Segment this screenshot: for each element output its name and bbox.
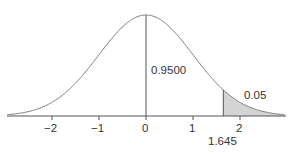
critical-value-label: 1.645 <box>208 136 237 148</box>
tick-label-neg2: −2 <box>44 123 57 135</box>
normal-distribution-chart: −2 −1 0 1 2 1.645 0.9500 0.05 <box>0 0 300 154</box>
center-area-label: 0.9500 <box>151 65 186 77</box>
tick-label-2: 2 <box>236 123 242 135</box>
tick-label-neg1: −1 <box>91 123 104 135</box>
tail-area-label: 0.05 <box>244 90 266 102</box>
tick-label-0: 0 <box>142 123 148 135</box>
x-axis-ticks <box>52 116 240 120</box>
tick-label-1: 1 <box>189 123 195 135</box>
